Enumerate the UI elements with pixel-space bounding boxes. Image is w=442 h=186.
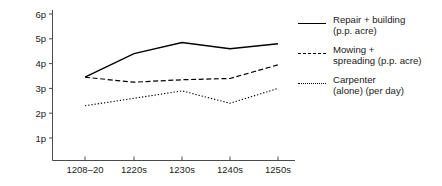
legend-item: Repair + building (p.p. acre) [298, 14, 440, 37]
legend-swatch-dotted-icon [298, 78, 326, 90]
y-tick-label: 1p [35, 133, 46, 144]
y-tick-label: 3p [35, 83, 46, 94]
series-line-2 [85, 65, 278, 82]
series-line-1 [85, 43, 278, 78]
legend-swatch-dashed-icon [298, 48, 326, 60]
legend-swatch-solid-icon [298, 18, 326, 30]
series-line-3 [85, 88, 278, 105]
x-tick-label: 1220s [121, 164, 147, 175]
chart-legend: Repair + building (p.p. acre) Mowing + s… [298, 14, 440, 103]
x-tick-label: 1208–20 [67, 164, 104, 175]
legend-item-label: Mowing + spreading (p.p. acre) [333, 44, 422, 67]
y-tick-label: 2p [35, 108, 46, 119]
y-tick-label: 6p [35, 9, 46, 20]
price-axis [53, 10, 296, 161]
x-tick-label: 1230s [169, 164, 195, 175]
x-tick-label: 1240s [217, 164, 243, 175]
legend-item-label: Repair + building (p.p. acre) [333, 14, 405, 37]
legend-item: Carpenter (alone) (per day) [298, 74, 440, 97]
line-chart: 1p2p3p4p5p6p1208–201220s1230s1240s1250s … [0, 0, 442, 186]
y-tick-label: 4p [35, 58, 46, 69]
legend-item-label: Carpenter (alone) (per day) [333, 74, 404, 97]
x-tick-label: 1250s [265, 164, 291, 175]
legend-item: Mowing + spreading (p.p. acre) [298, 44, 440, 67]
y-tick-label: 5p [35, 33, 46, 44]
